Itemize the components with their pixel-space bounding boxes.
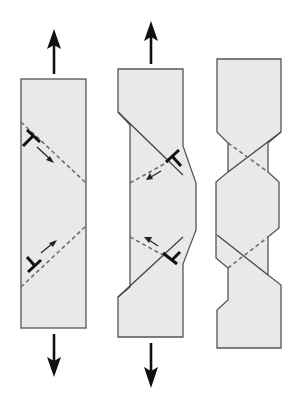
specimen-bar [21, 79, 86, 328]
slip-diagram [0, 0, 297, 407]
panel-slipped-necked [216, 59, 281, 348]
panel-partially-slipped [118, 21, 196, 388]
panel-undeformed [21, 29, 86, 377]
tension-arrow-up-icon [47, 29, 61, 74]
tension-arrow-down-icon [144, 343, 158, 388]
tension-arrow-down-icon [47, 334, 61, 377]
specimen-bar-necked [216, 59, 281, 348]
tension-arrow-up-icon [144, 21, 158, 64]
diagram-canvas [0, 0, 297, 407]
specimen-bar-offset [118, 69, 196, 337]
